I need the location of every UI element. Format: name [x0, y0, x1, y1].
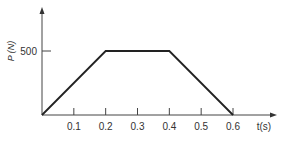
chart-svg: 500 P (N) 0.10.20.30.40.50.6 t(s) — [0, 0, 282, 150]
x-axis-arrow-icon — [270, 113, 277, 118]
data-series-line — [42, 51, 233, 115]
x-tick-label: 0.1 — [67, 121, 81, 132]
y-tick-label: 500 — [20, 46, 37, 57]
x-tick-label: 0.6 — [226, 121, 240, 132]
x-tick-label: 0.5 — [194, 121, 208, 132]
force-time-chart: 500 P (N) 0.10.20.30.40.50.6 t(s) — [0, 0, 282, 150]
x-tick-label: 0.3 — [131, 121, 145, 132]
y-axis-arrow-icon — [40, 7, 45, 14]
x-ticks: 0.10.20.30.40.50.6 — [67, 108, 241, 132]
y-axis-label: P (N) — [6, 41, 16, 62]
x-tick-label: 0.4 — [162, 121, 176, 132]
x-axis-label: t(s) — [257, 121, 271, 132]
x-tick-label: 0.2 — [99, 121, 113, 132]
